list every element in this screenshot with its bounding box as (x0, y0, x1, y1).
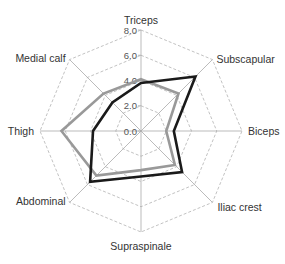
category-labels: TricepsSubscapularBicepsIliac crestSupra… (8, 14, 280, 252)
tick-label: 8.0 (124, 25, 137, 36)
category-label-biceps: Biceps (248, 125, 280, 137)
category-label-iliac-crest: Iliac crest (217, 201, 261, 213)
category-label-triceps: Triceps (124, 14, 158, 26)
radar-chart: 0.02.04.06.08.0 TricepsSubscapularBiceps… (0, 0, 285, 264)
category-label-subscapular: Subscapular (216, 53, 275, 65)
category-label-supraspinale: Supraspinale (110, 240, 171, 252)
category-label-thigh: Thigh (8, 125, 34, 137)
category-label-medial-calf: Medial calf (15, 52, 65, 64)
category-label-abdominal: Abdominal (16, 195, 66, 207)
tick-label: 0.0 (124, 126, 137, 137)
series-line-2 (61, 79, 178, 175)
radar-chart-svg: 0.02.04.06.08.0 TricepsSubscapularBiceps… (0, 0, 285, 264)
tick-label: 2.0 (124, 100, 137, 111)
tick-label: 6.0 (124, 50, 137, 61)
